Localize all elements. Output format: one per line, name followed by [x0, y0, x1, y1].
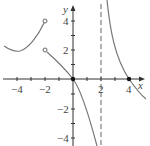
y-axis-label: y — [62, 3, 68, 15]
x-tick-label-neg4: −4 — [11, 83, 23, 95]
left-branch-curve — [4, 23, 44, 51]
open-point-neg2-2 — [43, 48, 47, 52]
filled-point-4-0 — [127, 77, 131, 81]
y-tick-label-2: 2 — [63, 44, 69, 56]
y-axis-arrow-icon — [71, 5, 76, 11]
x-tick-label-2: 2 — [98, 83, 104, 95]
x-tick-label-neg2: −2 — [39, 83, 51, 95]
middle-branch-curve — [47, 52, 97, 146]
axes — [3, 7, 143, 146]
x-tick-label-4: 4 — [126, 83, 132, 95]
x-axis-label: x — [137, 79, 143, 91]
y-tick-label-neg2: −2 — [57, 103, 69, 115]
curves — [4, 0, 146, 146]
filled-point-origin — [71, 77, 75, 81]
y-tick-label-neg4: −4 — [57, 132, 69, 144]
function-graph: x y −4 −2 2 4 4 2 −2 −4 — [0, 0, 150, 146]
y-tick-label-4: 4 — [63, 15, 69, 27]
open-point-neg2-4 — [43, 19, 47, 23]
